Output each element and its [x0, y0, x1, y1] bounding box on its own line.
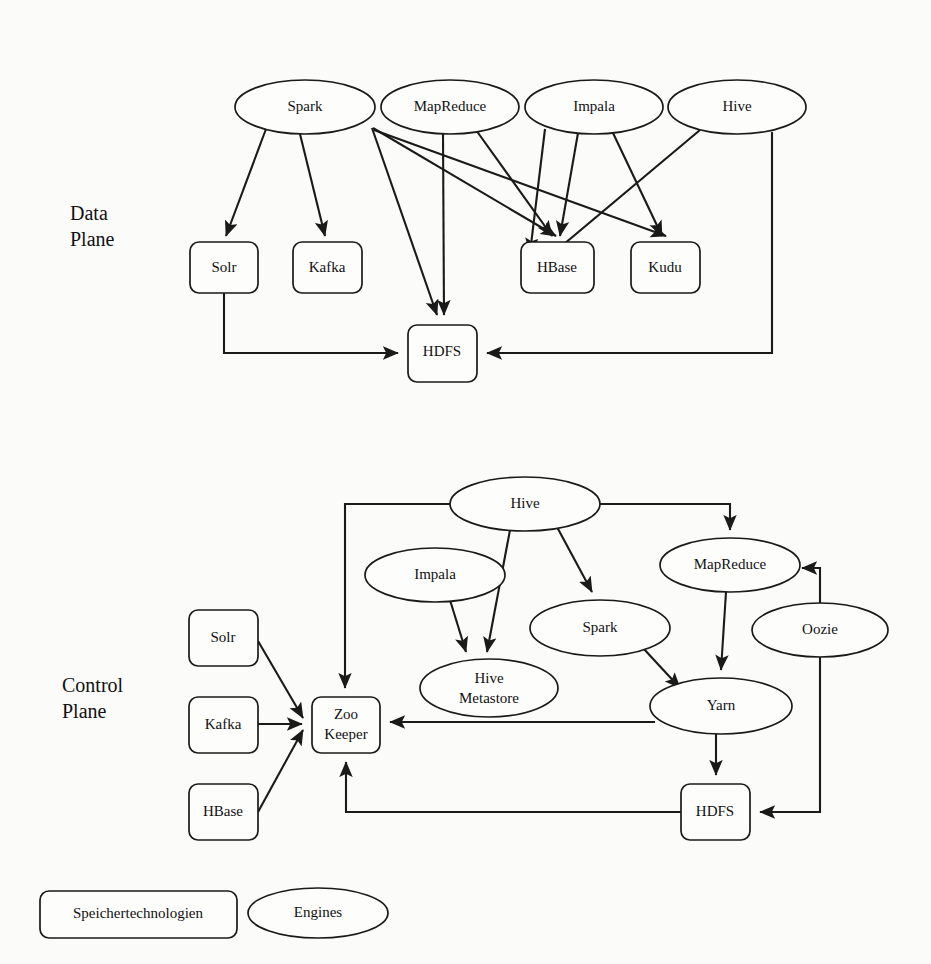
edge-cp-hive-spark — [557, 527, 592, 592]
node-cp-solr[interactable]: Solr — [189, 610, 258, 666]
edge-spark-hdfs — [372, 128, 437, 315]
node-cp-hive-metastore[interactable]: Hive Metastore — [420, 659, 558, 717]
node-cp-spark[interactable]: Spark — [530, 600, 670, 656]
node-dp-kafka[interactable]: Kafka — [293, 242, 362, 293]
legend-engine-label: Engines — [294, 904, 342, 920]
data-plane-nodes: Spark MapReduce Impala Hive Solr Kafka — [190, 80, 806, 382]
diagram-canvas: Data Plane Control Plane — [0, 0, 931, 964]
node-dp-impala[interactable]: Impala — [525, 80, 663, 134]
node-dp-mapreduce[interactable]: MapReduce — [381, 80, 519, 134]
edge-spark-kudu — [374, 130, 666, 236]
edge-hive-hbase — [545, 130, 700, 260]
edge-spark-solr — [226, 129, 266, 236]
edge-cp-hive-mapreduce — [600, 504, 730, 530]
legend-item-engine: Engines — [248, 888, 388, 938]
dp-mapreduce-label: MapReduce — [414, 98, 487, 114]
legend-item-storage: Speichertechnologien — [40, 891, 237, 938]
cp-mapreduce-label: MapReduce — [694, 556, 767, 572]
edge-cp-oozie-hdfs — [760, 657, 820, 812]
legend-storage-label: Speichertechnologien — [73, 905, 203, 921]
data-plane-label-line1: Data — [70, 202, 108, 224]
edge-cp-hbase-zookeeper — [258, 730, 303, 812]
cp-solr-label: Solr — [210, 629, 235, 645]
control-plane-label-line1: Control — [62, 674, 124, 696]
dp-hive-label: Hive — [722, 98, 752, 114]
edge-impala-kudu — [613, 133, 662, 236]
cp-hive-metastore-ellipse[interactable] — [420, 659, 558, 717]
cp-kafka-label: Kafka — [205, 716, 242, 732]
cp-yarn-label: Yarn — [707, 697, 736, 713]
control-plane-nodes: Hive Impala MapReduce Spark Oozie Hive — [189, 477, 888, 840]
node-cp-hbase[interactable]: HBase — [189, 784, 258, 840]
cp-hive-label: Hive — [510, 495, 540, 511]
edge-cp-mapreduce-yarn — [721, 592, 726, 670]
dp-hdfs-label: HDFS — [423, 343, 461, 359]
cp-zookeeper-rect[interactable] — [312, 697, 380, 753]
edge-cp-solr-zookeeper — [258, 641, 303, 718]
cp-oozie-label: Oozie — [802, 621, 838, 637]
node-cp-kafka[interactable]: Kafka — [189, 697, 258, 753]
dp-spark-label: Spark — [288, 98, 323, 114]
edge-impala-hbase — [560, 133, 578, 236]
node-dp-hbase[interactable]: HBase — [521, 242, 594, 293]
node-cp-hdfs[interactable]: HDFS — [681, 784, 750, 840]
node-dp-solr[interactable]: Solr — [190, 242, 258, 293]
edge-cp-oozie-mapreduce — [802, 568, 820, 603]
cp-hive-metastore-label-line1: Hive — [474, 670, 504, 686]
node-dp-spark[interactable]: Spark — [235, 80, 375, 134]
dp-kafka-label: Kafka — [309, 259, 346, 275]
diagram-svg: Data Plane Control Plane — [0, 0, 931, 964]
legend: Speichertechnologien Engines — [40, 888, 388, 938]
cp-spark-label: Spark — [583, 619, 618, 635]
cp-impala-label: Impala — [414, 566, 456, 582]
edge-spark-kafka — [300, 134, 325, 236]
edge-mapreduce-hbase — [476, 130, 552, 236]
node-cp-oozie[interactable]: Oozie — [752, 603, 888, 657]
edge-mapreduce-hdfs — [443, 134, 444, 315]
node-cp-yarn[interactable]: Yarn — [650, 678, 792, 734]
dp-kudu-label: Kudu — [648, 259, 682, 275]
data-plane-label: Data Plane — [70, 202, 115, 250]
cp-hbase-label: HBase — [203, 803, 243, 819]
node-dp-kudu[interactable]: Kudu — [631, 242, 700, 293]
node-cp-hive[interactable]: Hive — [450, 477, 600, 531]
edge-cp-hdfs-zookeeper — [346, 762, 681, 812]
cp-zookeeper-label-line1: Zoo — [334, 706, 358, 722]
dp-solr-label: Solr — [211, 259, 236, 275]
node-dp-hive[interactable]: Hive — [668, 80, 806, 134]
node-cp-mapreduce[interactable]: MapReduce — [660, 538, 800, 592]
control-plane-label: Control Plane — [62, 674, 124, 722]
cp-hdfs-label: HDFS — [696, 803, 734, 819]
data-plane-label-line2: Plane — [70, 228, 115, 250]
edge-spark-hbase — [373, 128, 556, 236]
data-plane-edges — [224, 128, 772, 353]
dp-impala-label: Impala — [573, 98, 615, 114]
node-cp-zookeeper[interactable]: Zoo Keeper — [312, 697, 380, 753]
cp-hive-metastore-label-line2: Metastore — [459, 690, 519, 706]
edge-cp-impala-metastore — [450, 600, 466, 652]
control-plane-label-line2: Plane — [62, 700, 107, 722]
node-dp-hdfs[interactable]: HDFS — [408, 325, 477, 382]
edge-solr-hdfs — [224, 293, 398, 353]
dp-hbase-label: HBase — [537, 259, 577, 275]
cp-zookeeper-label-line2: Keeper — [324, 726, 367, 742]
edge-cp-spark-yarn — [643, 648, 680, 688]
node-cp-impala[interactable]: Impala — [365, 548, 505, 602]
